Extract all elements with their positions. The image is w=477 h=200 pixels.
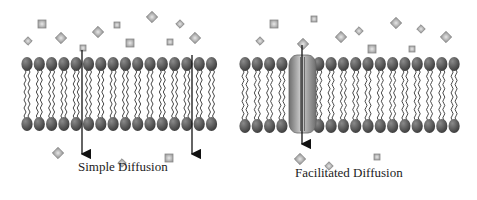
- lipid-tail: [159, 94, 161, 118]
- phospholipid-head: [157, 117, 168, 131]
- phospholipid-head: [34, 57, 45, 71]
- lipid-tail: [427, 70, 429, 95]
- phospholipid-head: [83, 117, 94, 131]
- solute-molecule: [374, 154, 380, 160]
- lipid-tail: [61, 94, 63, 118]
- lipid-tail: [200, 70, 202, 94]
- lipid-tail: [53, 94, 55, 118]
- lipid-tail: [49, 70, 51, 94]
- lipid-tail: [126, 70, 128, 94]
- phospholipid-head: [375, 119, 386, 133]
- lipid-tail: [151, 70, 153, 94]
- solute-molecule: [24, 37, 32, 45]
- lipid-tail: [242, 70, 244, 95]
- lipid-tail: [147, 94, 149, 118]
- lipid-tail: [283, 70, 285, 95]
- lipid-tail: [209, 70, 211, 94]
- lipid-tail: [344, 95, 346, 120]
- lipid-tail: [40, 70, 42, 94]
- lipid-tail: [86, 94, 88, 118]
- phospholipid-head: [206, 117, 217, 131]
- lipid-tail: [267, 70, 269, 95]
- lipid-tail: [320, 95, 322, 120]
- lipid-tail: [340, 95, 342, 120]
- diagram-canvas: [0, 0, 477, 200]
- lipid-tail: [394, 70, 396, 95]
- phospholipid-head: [362, 119, 373, 133]
- phospholipid-head: [169, 57, 180, 71]
- phospholipid-head: [95, 57, 106, 71]
- lipid-tail: [451, 70, 453, 95]
- solute-molecule: [176, 20, 184, 28]
- lipid-tail: [90, 94, 92, 118]
- phospholipid-head: [252, 119, 263, 133]
- solute-molecule: [417, 25, 425, 33]
- solute-molecule: [311, 16, 317, 22]
- lipid-tail: [455, 95, 457, 120]
- lipid-tail: [328, 95, 330, 120]
- lipid-tail: [65, 70, 67, 94]
- lipid-tail: [200, 94, 202, 118]
- lipid-tail: [98, 70, 100, 94]
- phospholipid-head: [34, 117, 45, 131]
- phospholipid-head: [132, 117, 143, 131]
- phospholipid-head: [412, 119, 423, 133]
- lipid-tail: [381, 95, 383, 120]
- lipid-tail: [24, 70, 26, 94]
- phospholipid-head: [326, 119, 337, 133]
- lipid-tail: [283, 95, 285, 120]
- lipid-tail: [184, 70, 186, 94]
- lipid-tail: [402, 95, 404, 120]
- phospholipid-head: [46, 57, 57, 71]
- lipid-tail: [332, 95, 334, 120]
- phospholipid-head: [338, 57, 349, 71]
- phospholipid-head: [436, 119, 447, 133]
- solute-molecule: [126, 39, 134, 47]
- lipid-tail: [188, 94, 190, 118]
- lipid-tail: [65, 94, 67, 118]
- solute-molecule: [440, 31, 451, 42]
- lipid-tail: [279, 95, 281, 120]
- phospholipid-head: [239, 57, 250, 71]
- lipid-tail: [135, 70, 137, 94]
- solute-molecule: [114, 22, 120, 28]
- solute-molecule: [390, 17, 401, 28]
- lipid-tail: [102, 70, 104, 94]
- lipid-tail: [172, 94, 174, 118]
- solute-molecule: [167, 39, 173, 45]
- lipid-tail: [443, 70, 445, 95]
- phospholipid-head: [144, 57, 155, 71]
- lipid-tail: [90, 70, 92, 94]
- solute-molecule: [256, 37, 264, 45]
- phospholipid-head: [144, 117, 155, 131]
- phospholipid-head: [264, 119, 275, 133]
- lipid-tail: [73, 70, 75, 94]
- lipid-tail: [61, 70, 63, 94]
- lipid-tail: [176, 70, 178, 94]
- lipid-tail: [357, 95, 359, 120]
- lipid-tail: [49, 94, 51, 118]
- phospholipid-head: [412, 57, 423, 71]
- lipid-tail: [126, 94, 128, 118]
- lipid-tail: [213, 70, 215, 94]
- lipid-tail: [455, 70, 457, 95]
- lipid-tail: [242, 95, 244, 120]
- solute-molecule: [409, 46, 415, 52]
- solute-molecule: [294, 153, 305, 164]
- phospholipid-head: [276, 119, 287, 133]
- phospholipid-head: [350, 57, 361, 71]
- phospholipid-head: [424, 57, 435, 71]
- phospholipid-head: [350, 119, 361, 133]
- solute-molecule: [92, 26, 103, 37]
- phospholipid-head: [362, 57, 373, 71]
- lipid-tail: [377, 70, 379, 95]
- lipid-tail: [254, 95, 256, 120]
- lipid-tail: [151, 94, 153, 118]
- phospholipid-head: [375, 57, 386, 71]
- lipid-tail: [320, 70, 322, 95]
- lipid-tail: [439, 95, 441, 120]
- lipid-tail: [114, 70, 116, 94]
- lipid-tail: [53, 70, 55, 94]
- lipid-tail: [213, 94, 215, 118]
- phospholipid-head: [120, 57, 131, 71]
